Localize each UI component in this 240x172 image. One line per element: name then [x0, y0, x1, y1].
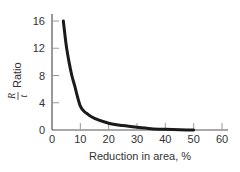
data-line — [63, 21, 193, 130]
x-tick-label: 30 — [131, 133, 143, 145]
y-label-numerator: R — [6, 93, 17, 100]
x-tick-label: 20 — [103, 133, 115, 145]
x-axis-label: Reduction in area, % — [89, 150, 191, 162]
y-tick-label: 12 — [33, 42, 45, 54]
chart: 01020304050600481216 Reduction in area, … — [0, 0, 240, 172]
x-tick-label: 50 — [188, 133, 200, 145]
y-tick-label: 8 — [39, 70, 45, 82]
x-tick-label: 40 — [159, 133, 171, 145]
y-tick-label: 16 — [33, 15, 45, 27]
y-tick-label: 4 — [39, 97, 45, 109]
x-tick-label: 60 — [216, 133, 228, 145]
x-tick-label: 10 — [74, 133, 86, 145]
y-label-text: Ratio — [11, 62, 23, 88]
x-tick-label: 0 — [49, 133, 55, 145]
y-label-denominator: t — [18, 94, 29, 97]
y-tick-label: 0 — [39, 124, 45, 136]
y-axis-label: R t Ratio — [6, 62, 29, 100]
